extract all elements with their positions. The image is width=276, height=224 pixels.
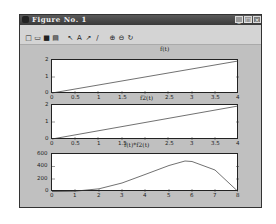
subplot-1-xtick: 3.5 [211,94,220,100]
zoom-out-icon[interactable]: ⊖ [118,35,125,42]
subplot-2-ytick: 2 [45,101,49,107]
subplot-1-xtick: 0 [50,94,54,100]
subplot-1-xtick: 3 [190,94,194,100]
subplot-2-axes[interactable] [51,104,238,139]
matlab-figure-icon [22,16,29,23]
print-icon[interactable]: ▤ [52,35,59,42]
subplot-1-xtick: 1 [97,94,101,100]
insert-arrow-icon[interactable]: ↗ [85,35,92,42]
menu-bar: File Edit View Insert Tools Window Help [20,25,261,33]
subplot-1-axes[interactable] [51,59,238,93]
subplot-3-xtick: 4 [143,192,147,198]
zoom-in-icon[interactable]: ⊕ [109,35,116,42]
subplot-3-title: f(t)*f2(t) [124,141,149,148]
window-title: Figure No. 1 [32,15,87,25]
subplot-3-xtick: 5 [167,192,171,198]
subplot-2-xtick: 3 [190,140,194,146]
maximize-button[interactable]: □ [244,16,252,23]
subplot-2-ytick: 0 [45,135,49,141]
subplot-1-line [52,60,239,94]
minimize-button[interactable]: _ [235,16,243,23]
subplot-2-title: f2(t) [140,94,153,101]
subplot-2-xtick: 0.5 [71,140,80,146]
subplot-3-xtick: 1 [73,192,77,198]
subplot-1-xtick: 2.5 [165,94,174,100]
subplot-2-xtick: 1 [97,140,101,146]
insert-line-icon[interactable]: / [94,35,101,42]
subplot-3-xtick: 0 [50,192,54,198]
toolbar: □ ▭ ■ ▤ ↖ A ↗ / ⊕ ⊖ ↻ [20,33,261,45]
subplot-3-ytick: 0 [45,187,49,193]
insert-text-icon[interactable]: A [76,35,83,42]
rotate-icon[interactable]: ↻ [127,35,134,42]
close-button[interactable]: × [253,16,261,23]
subplot-2-ytick: 1 [45,118,49,124]
title-bar[interactable]: Figure No. 1 _ □ × [20,15,261,25]
subplot-3-curve [52,154,239,192]
subplot-2-xtick: 2.5 [165,140,174,146]
subplot-3-xtick: 8 [236,192,240,198]
subplot-3-ytick: 400 [37,162,48,168]
subplot-2-line [52,105,239,140]
subplot-1-ytick: 2 [45,56,49,62]
subplot-3-xtick: 3 [120,192,124,198]
select-arrow-icon[interactable]: ↖ [67,35,74,42]
subplot-2-xtick: 4 [236,140,240,146]
subplot-3-xtick: 6 [190,192,194,198]
subplot-2-xtick: 3.5 [211,140,220,146]
subplot-3-ytick: 600 [37,150,48,156]
subplot-3-axes[interactable] [51,153,238,191]
subplot-1-xtick: 4 [236,94,240,100]
subplot-1-ytick: 0 [45,89,49,95]
new-icon[interactable]: □ [25,35,32,42]
subplot-2-xtick: 0 [50,140,54,146]
subplot-3-xtick: 7 [213,192,217,198]
figure-window: Figure No. 1 _ □ × File Edit View Insert… [19,14,262,208]
subplot-3-xtick: 2 [97,192,101,198]
subplot-1-ytick: 1 [45,73,49,79]
subplot-1-title: f(t) [160,45,169,52]
subplot-3-ytick: 200 [37,175,48,181]
open-icon[interactable]: ▭ [34,35,41,42]
save-icon[interactable]: ■ [43,35,50,42]
subplot-1-xtick: 0.5 [71,94,80,100]
subplot-1-xtick: 1.5 [118,94,127,100]
